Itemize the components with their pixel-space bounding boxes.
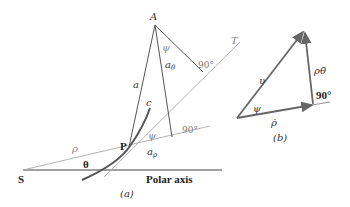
label-rho-theta-dot: ρθ̇ xyxy=(313,65,326,76)
caption-a: (a) xyxy=(120,188,134,199)
tangent-line xyxy=(104,42,240,177)
right-angle-bottom: 90° xyxy=(182,125,198,135)
right-angle-b: 90° xyxy=(316,89,331,101)
polar-axis-label: Polar axis xyxy=(146,173,193,185)
velocity-vector xyxy=(237,32,303,118)
label-theta: θ xyxy=(83,158,89,170)
label-a: a xyxy=(133,79,139,90)
label-psi-top: ψ xyxy=(162,42,170,53)
label-a-theta: aθ xyxy=(165,59,176,72)
rho-dot-extension xyxy=(312,102,330,105)
label-a-rho: aρ xyxy=(147,146,158,159)
label-psi-bottom: ψ xyxy=(148,130,156,141)
label-v: υ xyxy=(259,75,265,86)
diagram-b: υ ψ ρθ̇ 90° ρ̇ (b) xyxy=(237,32,331,143)
diagram-a: A T P S a aθ aρ c ψ ψ ρ θ 90° 90° Polar … xyxy=(18,11,240,199)
point-a-label: A xyxy=(149,11,157,22)
label-psi-b: ψ xyxy=(253,103,261,114)
rho-theta-dot-vector xyxy=(305,33,313,104)
point-p-label: P xyxy=(120,140,127,152)
curve-c xyxy=(82,108,150,180)
diagram-canvas: A T P S a aθ aρ c ψ ψ ρ θ 90° 90° Polar … xyxy=(0,0,350,207)
label-rho-dot: ρ̇ xyxy=(270,117,277,128)
label-c: c xyxy=(146,97,152,108)
caption-b: (b) xyxy=(273,132,287,143)
right-angle-top: 90° xyxy=(198,60,214,70)
label-rho: ρ xyxy=(71,143,78,154)
point-s-label: S xyxy=(18,173,24,185)
